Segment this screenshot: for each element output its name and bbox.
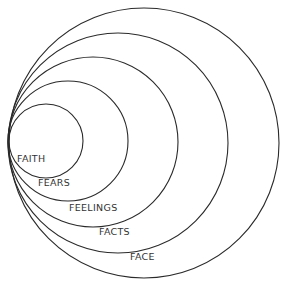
label-fears: FEARS bbox=[38, 177, 70, 188]
label-facts: FACTS bbox=[99, 226, 130, 237]
circle-faith bbox=[9, 104, 83, 178]
nested-circles-diagram: FAITH FEARS FEELINGS FACTS FACE bbox=[0, 0, 287, 281]
label-faith: FAITH bbox=[17, 153, 45, 164]
circle-face bbox=[9, 8, 279, 278]
circle-facts bbox=[8, 33, 228, 253]
label-feelings: FEELINGS bbox=[69, 202, 117, 213]
label-face: FACE bbox=[130, 251, 155, 262]
